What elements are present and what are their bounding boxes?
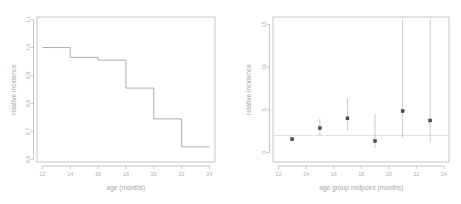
x-axis-left: 12 14 16 18 20 22 24 age (months) <box>39 166 212 192</box>
y-tick-label: 0.9 <box>25 72 31 80</box>
chart-panel-right: 15 10 5 0 relative incidence 12 14 16 18 <box>231 0 461 204</box>
x-axis-title: age (months) <box>106 184 145 192</box>
y-tick-label: 10 <box>261 64 267 70</box>
plot-frame-right <box>273 17 449 162</box>
x-tick-label: 22 <box>179 171 185 177</box>
x-tick-label: 14 <box>67 171 73 177</box>
data-point <box>318 127 321 130</box>
y-tick-label: 0.7 <box>25 128 31 136</box>
x-tick-label: 18 <box>123 171 129 177</box>
x-tick-label: 16 <box>331 171 337 177</box>
y-axis-right: 15 10 5 0 relative incidence <box>245 22 270 155</box>
y-axis-left: 1.1 1.0 0.9 0.8 0.7 0.6 relative inciden… <box>10 16 34 163</box>
x-tick-label: 22 <box>413 171 419 177</box>
figure-root: 1.1 1.0 0.9 0.8 0.7 0.6 relative inciden… <box>0 0 461 204</box>
data-point <box>291 138 294 141</box>
chart-panel-left: 1.1 1.0 0.9 0.8 0.7 0.6 relative inciden… <box>0 0 230 204</box>
x-tick-label: 14 <box>303 171 309 177</box>
errorbar-chart-svg: 15 10 5 0 relative incidence 12 14 16 18 <box>231 0 461 204</box>
x-tick-label: 18 <box>358 171 364 177</box>
y-tick-label: 15 <box>261 22 267 28</box>
x-tick-label: 24 <box>441 171 447 177</box>
x-tick-label: 20 <box>386 171 392 177</box>
y-tick-label: 0 <box>261 151 267 154</box>
y-tick-label: 1.1 <box>25 16 31 24</box>
error-bar-series <box>291 19 432 147</box>
x-tick-label: 12 <box>276 171 282 177</box>
y-tick-label: 0.8 <box>25 100 31 108</box>
y-tick-label: 5 <box>261 108 267 111</box>
y-axis-title: relative incidence <box>10 64 17 115</box>
x-axis-right: 12 14 16 18 20 22 24 age group midpoint … <box>276 166 448 192</box>
step-series <box>42 48 209 147</box>
data-point <box>429 119 432 122</box>
data-point <box>374 139 377 142</box>
x-tick-label: 16 <box>95 171 101 177</box>
x-tick-label: 24 <box>207 171 213 177</box>
y-tick-label: 0.6 <box>25 156 31 164</box>
y-tick-label: 1.0 <box>25 44 31 52</box>
y-axis-title: relative incidence <box>245 64 252 115</box>
x-axis-title: age group midpoint (months) <box>319 184 403 192</box>
data-point <box>401 110 404 113</box>
step-chart-svg: 1.1 1.0 0.9 0.8 0.7 0.6 relative inciden… <box>0 0 230 204</box>
x-tick-label: 20 <box>151 171 157 177</box>
x-tick-label: 12 <box>39 171 45 177</box>
data-point <box>346 117 349 120</box>
plot-frame-left <box>37 17 215 162</box>
